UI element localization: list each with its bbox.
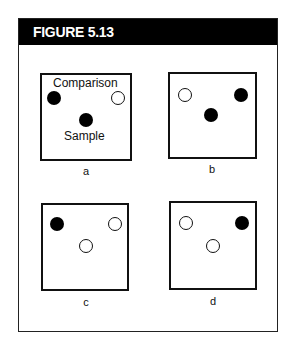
comparison-label: Comparison [53,76,118,90]
panel-b-caption: b [202,163,222,175]
comparison-left-stimulus [47,91,61,105]
panel-c [41,203,129,291]
comparison-left-stimulus [179,216,193,230]
panel-c-caption: c [76,296,96,308]
panel-d-caption: d [203,295,223,307]
sample-stimulus [79,113,93,127]
panel-d [169,201,257,290]
panel-a: Comparison Sample [40,73,132,161]
comparison-right-stimulus [234,88,248,102]
sample-stimulus [79,239,93,253]
figure-header: FIGURE 5.13 [19,19,277,45]
panel-b [168,72,257,159]
comparison-right-stimulus [111,91,125,105]
figure-title: FIGURE 5.13 [33,24,114,40]
comparison-left-stimulus [50,217,64,231]
comparison-left-stimulus [178,88,192,102]
sample-stimulus [206,239,220,253]
panel-a-caption: a [76,165,96,177]
comparison-right-stimulus [235,216,249,230]
sample-stimulus [204,108,218,122]
sample-label: Sample [64,129,105,143]
comparison-right-stimulus [108,217,122,231]
